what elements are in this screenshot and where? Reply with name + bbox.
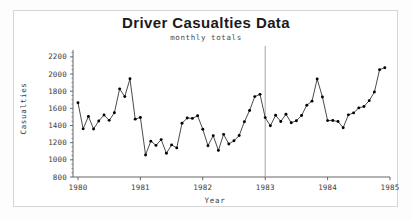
data-point [186, 117, 189, 120]
data-point [233, 139, 236, 142]
data-point [181, 122, 184, 125]
data-point [144, 154, 147, 157]
data-point [264, 116, 267, 119]
data-point [285, 113, 288, 116]
data-point [238, 134, 241, 137]
data-point [123, 95, 126, 98]
x-tick-label: 1982 [183, 183, 223, 192]
data-point [108, 119, 111, 122]
data-point [326, 119, 329, 122]
data-point [212, 134, 215, 137]
data-point [368, 99, 371, 102]
data-point [160, 138, 163, 141]
data-point [165, 152, 168, 155]
data-point [352, 111, 355, 114]
data-point [134, 118, 137, 121]
data-point [87, 115, 90, 118]
data-point [248, 109, 251, 112]
data-point [191, 117, 194, 120]
data-point [274, 114, 277, 117]
y-tick-label: 1600 [33, 104, 67, 113]
data-point [269, 124, 272, 127]
data-point [77, 101, 80, 104]
data-point [207, 144, 210, 147]
data-point [175, 146, 178, 149]
data-point [342, 126, 345, 129]
chart-screenshot: Driver Casualties Data monthly totals Ca… [0, 0, 412, 220]
data-point [243, 120, 246, 123]
x-tick-label: 1984 [308, 183, 348, 192]
data-point [373, 91, 376, 94]
y-tick-label: 1800 [33, 87, 67, 96]
data-point [383, 66, 386, 69]
data-point [113, 111, 116, 114]
y-tick-label: 1000 [33, 155, 67, 164]
x-tick-label: 1983 [245, 183, 285, 192]
x-tick-label: 1981 [120, 183, 160, 192]
data-point [321, 95, 324, 98]
data-point [196, 114, 199, 117]
data-point [129, 77, 132, 80]
data-point [253, 95, 256, 98]
y-tick-label: 2000 [33, 70, 67, 79]
data-point [378, 68, 381, 71]
data-point [155, 144, 158, 147]
data-point [227, 143, 230, 146]
data-point [217, 149, 220, 152]
data-point [305, 104, 308, 107]
data-point [103, 114, 106, 117]
data-point [118, 87, 121, 90]
data-point [201, 128, 204, 131]
data-point [357, 106, 360, 109]
y-tick-label: 1400 [33, 121, 67, 130]
x-tick-label: 1980 [58, 183, 98, 192]
data-point [311, 100, 314, 103]
data-point [337, 120, 340, 123]
data-point [316, 78, 319, 81]
data-point [279, 120, 282, 123]
data-point [259, 93, 262, 96]
data-point [170, 143, 173, 146]
x-axis-ticks [78, 177, 390, 180]
data-point [82, 127, 85, 130]
data-point [295, 119, 298, 122]
data-point [331, 119, 334, 122]
y-tick-label: 800 [33, 173, 67, 182]
data-series-line [78, 68, 385, 155]
data-point [139, 116, 142, 119]
data-point [347, 113, 350, 116]
data-point [149, 140, 152, 143]
data-point [290, 121, 293, 124]
data-point [300, 114, 303, 117]
x-tick-label: 1985 [370, 183, 410, 192]
y-tick-label: 1200 [33, 138, 67, 147]
y-tick-label: 2200 [33, 52, 67, 61]
data-point [92, 128, 95, 131]
data-point [222, 133, 225, 136]
data-point [363, 105, 366, 108]
data-point [97, 120, 100, 123]
